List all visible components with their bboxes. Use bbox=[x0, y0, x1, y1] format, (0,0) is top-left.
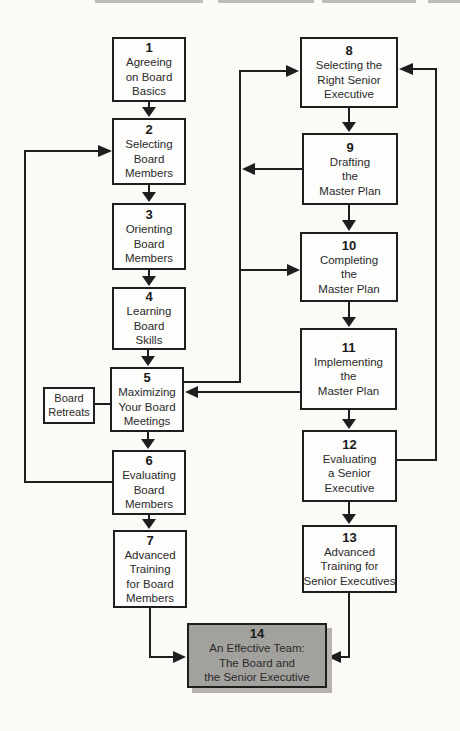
arrow-3-to-4 bbox=[142, 270, 156, 286]
box-5-maximizing-your-board-meetings: 5 Maximizing Your Board Meetings bbox=[110, 367, 184, 432]
box-label: Evaluating Board Members bbox=[122, 468, 176, 512]
box-14-an-effective-team: 14 An Effective Team: The Board and the … bbox=[187, 623, 327, 688]
box-number: 9 bbox=[346, 140, 353, 155]
box-label: An Effective Team: The Board and the Sen… bbox=[204, 641, 309, 685]
box-label: Evaluating a Senior Executive bbox=[323, 452, 377, 496]
arrow-13-to-14 bbox=[328, 593, 349, 663]
box-12-evaluating-a-senior-executive: 12 Evaluating a Senior Executive bbox=[302, 430, 397, 502]
arrow-1-to-2 bbox=[142, 102, 156, 117]
box-label: Implementing the Master Plan bbox=[314, 355, 383, 399]
box-9-drafting-the-master-plan: 9 Drafting the Master Plan bbox=[302, 133, 398, 205]
arrow-12-to-13 bbox=[342, 502, 356, 524]
box-label: Learning Board Skills bbox=[127, 304, 172, 348]
box-number: 1 bbox=[145, 40, 152, 55]
feedback-6-to-2 bbox=[25, 145, 113, 482]
box-number: 12 bbox=[342, 437, 356, 452]
box-11-implementing-the-master-plan: 11 Implementing the Master Plan bbox=[300, 328, 397, 410]
box-number: 5 bbox=[143, 370, 150, 385]
box-13-advanced-training-for-senior-executives: 13 Advanced Training for Senior Executiv… bbox=[302, 525, 397, 593]
box-label: Advanced Training for Senior Executives bbox=[303, 545, 395, 589]
box-label: Board Retreats bbox=[48, 392, 90, 419]
box-board-retreats: Board Retreats bbox=[43, 387, 95, 424]
box-number: 13 bbox=[342, 530, 356, 545]
box-number: 7 bbox=[146, 533, 153, 548]
arrow-bus-to-10 bbox=[240, 264, 300, 276]
box-number: 3 bbox=[145, 207, 152, 222]
arrow-5-to-6 bbox=[141, 432, 155, 449]
arrow-10-to-11 bbox=[342, 302, 356, 327]
box-label: Maximizing Your Board Meetings bbox=[118, 385, 176, 429]
arrow-9-to-bus bbox=[242, 163, 302, 175]
box-label: Completing the Master Plan bbox=[318, 253, 379, 297]
box-label: Agreeing on Board Basics bbox=[126, 55, 173, 99]
box-6-evaluating-board-members: 6 Evaluating Board Members bbox=[112, 450, 186, 515]
box-label: Drafting the Master Plan bbox=[319, 155, 380, 199]
box-label: Orienting Board Members bbox=[125, 222, 173, 266]
arrow-8-to-9 bbox=[342, 108, 356, 132]
arrow-7-to-14 bbox=[150, 608, 186, 663]
box-10-completing-the-master-plan: 10 Completing the Master Plan bbox=[300, 232, 398, 302]
arrow-11-to-12 bbox=[342, 410, 356, 429]
box-number: 4 bbox=[145, 289, 152, 304]
box-2-selecting-board-members: 2 Selecting Board Members bbox=[112, 118, 186, 185]
arrow-11-to-5 bbox=[185, 386, 300, 398]
box-number: 6 bbox=[145, 453, 152, 468]
box-label: Advanced Training for Board Members bbox=[124, 548, 175, 606]
box-number: 2 bbox=[145, 122, 152, 137]
box-7-advanced-training-for-board-members: 7 Advanced Training for Board Members bbox=[113, 530, 187, 608]
box-label: Selecting the Right Senior Executive bbox=[316, 58, 383, 102]
box-3-orienting-board-members: 3 Orienting Board Members bbox=[112, 203, 186, 270]
box-number: 14 bbox=[250, 626, 264, 641]
box-4-learning-board-skills: 4 Learning Board Skills bbox=[112, 287, 186, 350]
arrow-2-to-3 bbox=[142, 185, 156, 202]
feedback-12-to-8 bbox=[397, 63, 436, 460]
arrow-6-to-7 bbox=[142, 515, 156, 529]
box-number: 8 bbox=[345, 43, 352, 58]
box-number: 11 bbox=[342, 340, 356, 355]
box-number: 10 bbox=[342, 238, 356, 253]
flowchart-canvas: 1 Agreeing on Board Basics 2 Selecting B… bbox=[0, 0, 460, 731]
arrow-4-to-5 bbox=[141, 350, 155, 366]
box-8-selecting-the-right-senior-executive: 8 Selecting the Right Senior Executive bbox=[300, 37, 398, 108]
arrow-9-to-10 bbox=[342, 205, 356, 231]
scan-artifact bbox=[95, 0, 460, 3]
bus-5-to-8 bbox=[184, 65, 299, 382]
box-label: Selecting Board Members bbox=[125, 137, 173, 181]
box-1-agreeing-on-board-basics: 1 Agreeing on Board Basics bbox=[112, 37, 186, 102]
